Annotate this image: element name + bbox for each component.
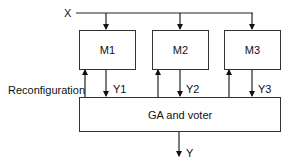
output-y1-label: Y1 (113, 83, 126, 95)
output-y3-label: Y3 (258, 83, 271, 95)
reconfiguration-label: Reconfiguration (8, 84, 85, 96)
module-m1-label: M1 (100, 44, 115, 56)
ga-voter-label: GA and voter (148, 109, 212, 121)
module-m2-label: M2 (173, 44, 188, 56)
input-label-x: X (64, 7, 71, 19)
module-m2: M2 (152, 30, 209, 70)
module-m1: M1 (79, 30, 136, 70)
output-y-label: Y (186, 147, 193, 159)
connector-lines (0, 0, 285, 163)
output-y2-label: Y2 (186, 83, 199, 95)
module-m3: M3 (224, 30, 281, 70)
module-m3-label: M3 (245, 44, 260, 56)
ga-voter-block: GA and voter (79, 97, 281, 132)
